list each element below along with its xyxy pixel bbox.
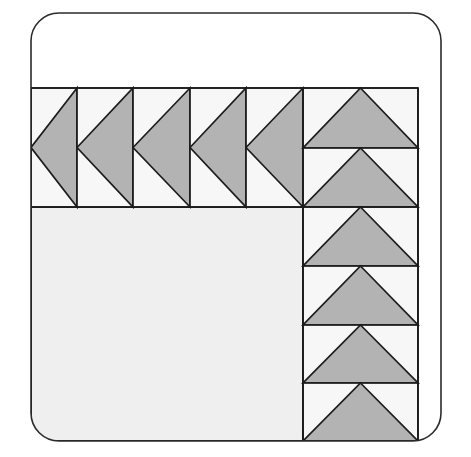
triangle-up-rc-1	[303, 207, 418, 266]
triangle-left-4	[190, 88, 246, 207]
top-row-triangle-band	[31, 88, 303, 207]
triangle-left-1	[31, 88, 77, 207]
right-column-triangle-stack	[303, 207, 418, 441]
triangle-left-3	[133, 88, 190, 207]
triangle-up-rc-2	[303, 266, 418, 325]
triangle-left-5	[246, 88, 303, 207]
triangle-up-rc-3	[303, 325, 418, 383]
plain-block	[31, 207, 303, 441]
triangle-up-rc-4	[303, 383, 418, 441]
figure-root	[0, 0, 471, 457]
triangle-up-tr-1	[303, 88, 418, 148]
triangle-up-tr-2	[303, 148, 418, 207]
triangle-left-2	[77, 88, 133, 207]
top-right-triangle-stack	[303, 88, 418, 207]
geometric-pattern-illustration	[0, 0, 471, 457]
pattern-group	[31, 88, 418, 441]
